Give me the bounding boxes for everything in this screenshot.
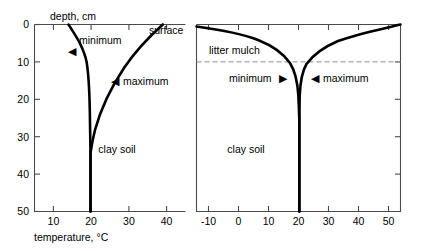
right-minimum-label: minimum [229,72,272,84]
panel-mulched-clay-soil: -10 0 10 20 30 40 50 litter mulch minimu… [197,25,401,228]
right-xtick-30: 30 [323,215,335,227]
right-xtick-20: 20 [293,215,305,227]
right-xtick-40: 40 [353,215,365,227]
right-x-tick-labels: -10 0 10 20 30 40 50 [201,215,395,227]
right-clay-soil-label: clay soil [227,143,264,155]
left-minimum-arrow-icon: ◀ [68,45,77,57]
left-maximum-arrow-icon: ◀ [111,75,120,87]
left-ytick-30: 30 [17,131,29,143]
left-xtick-10: 10 [48,215,60,227]
soil-temperature-figure: depth, cm 0 10 20 30 40 50 [0,0,425,251]
left-temperature-axis-title: temperature, °C [34,231,109,243]
left-xtick-30: 30 [123,215,135,227]
left-ytick-40: 40 [17,168,29,180]
right-x-ticks-top [209,25,389,31]
left-xtick-40: 40 [161,215,173,227]
panel-bare-clay-soil: depth, cm 0 10 20 30 40 50 [17,10,185,243]
left-plot-frame [35,25,186,212]
figure-svg: depth, cm 0 10 20 30 40 50 [0,0,425,251]
right-y-ticks [395,62,401,174]
left-ytick-50: 50 [17,205,29,217]
left-y-tick-labels: 0 10 20 30 40 50 [17,18,29,217]
left-xtick-20: 20 [85,215,97,227]
right-xtick-10: 10 [263,215,275,227]
left-minimum-label: minimum [79,34,122,46]
left-y-ticks [35,25,41,212]
left-x-tick-labels: 10 20 30 40 [48,215,173,227]
left-ytick-0: 0 [23,18,29,30]
left-maximum-curve [91,25,163,212]
left-ytick-10: 10 [17,56,29,68]
right-xtick-50: 50 [383,215,395,227]
right-maximum-label: maximum [323,72,369,84]
right-xtick-neg10: -10 [201,215,216,227]
left-depth-axis-title: depth, cm [50,10,96,22]
right-maximum-arrow-icon: ◀ [311,72,320,84]
left-x-ticks-bottom [53,206,166,212]
left-ytick-20: 20 [17,93,29,105]
right-xtick-0: 0 [236,215,242,227]
right-maximum-curve [299,25,400,212]
right-minimum-arrow-icon: ▶ [279,72,288,84]
left-clay-soil-label: clay soil [98,143,135,155]
left-maximum-label: maximum [123,75,169,87]
right-litter-mulch-label: litter mulch [209,44,260,56]
left-surface-label: surface [149,24,184,36]
